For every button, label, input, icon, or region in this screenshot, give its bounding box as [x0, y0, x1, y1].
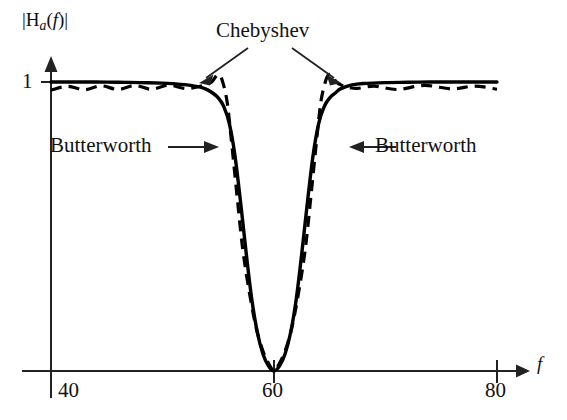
chebyshev-left-leader: [206, 48, 248, 78]
x-tick-label-80: 80: [485, 380, 506, 401]
annotation-arrows: [168, 48, 396, 153]
x-tick-label-40: 40: [58, 380, 79, 401]
x-tick-label-60: 60: [262, 380, 283, 401]
annotation-butterworth-right: Butterworth: [375, 135, 476, 156]
plot-canvas: [0, 0, 567, 420]
annotation-butterworth-left: Butterworth: [50, 135, 151, 156]
filter-response-figure: |Ha(f)| 1 40 60 80 f Chebyshev Butterwor…: [0, 0, 567, 420]
y-axis-label: |Ha(f)|: [22, 10, 68, 33]
y-tick-label-1: 1: [22, 71, 33, 92]
y-axis-label-h: H: [26, 9, 40, 30]
x-axis-label: f: [537, 354, 542, 373]
annotation-chebyshev: Chebyshev: [216, 20, 309, 41]
axes-group: [22, 56, 530, 398]
butterworth-right-arrowhead: [349, 141, 364, 153]
x-axis-arrowhead: [516, 365, 530, 378]
curve-butterworth: [51, 82, 497, 371]
y-axis-arrowhead: [45, 56, 58, 72]
curves-group: [51, 74, 497, 371]
curve-chebyshev: [51, 74, 497, 371]
chebyshev-right-leader: [292, 48, 334, 78]
butterworth-left-arrowhead: [204, 141, 219, 153]
y-axis-label-bar-close: |: [64, 9, 68, 30]
